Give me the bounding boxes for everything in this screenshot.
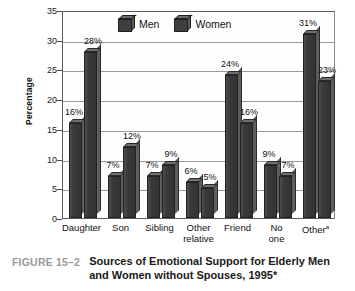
bar-front-face — [162, 165, 175, 218]
figure-container: Percentage 05101520253035 16%28%7%12%7%9… — [0, 0, 355, 291]
bar-front-face — [186, 182, 199, 218]
bar-front-face — [279, 176, 292, 218]
cube-icon — [118, 15, 135, 32]
bar-women — [84, 52, 97, 218]
bar-side-face — [253, 115, 257, 214]
legend-entry-women: Women — [174, 15, 231, 32]
x-label-other: Othera — [288, 222, 343, 235]
bar-women — [162, 165, 175, 218]
bar-group: 7%12% — [102, 10, 141, 218]
bar-front-face — [123, 147, 136, 218]
bar-front-face — [201, 188, 214, 218]
bar-side-face — [97, 44, 101, 214]
bar-men — [186, 182, 199, 218]
figure-number: FIGURE 15–2 — [12, 255, 80, 268]
y-tick-label: 15 — [17, 125, 57, 135]
bar-group: 31%23% — [297, 10, 336, 218]
bar-group: 24%16% — [219, 10, 258, 218]
bar-front-face — [225, 75, 238, 218]
caption-text: Sources of Emotional Support for Elderly… — [89, 255, 344, 282]
y-tick-label: 35 — [17, 6, 57, 16]
bar-men — [264, 165, 277, 218]
bar-side-face — [136, 139, 140, 214]
bar-value-label: 23% — [312, 65, 342, 75]
bar-front-face — [108, 176, 121, 218]
cube-icon — [174, 15, 191, 32]
legend-entry-men: Men — [118, 15, 159, 32]
bar-front-face — [69, 123, 82, 218]
bar-side-face — [175, 157, 179, 214]
chart-region: Percentage 05101520253035 16%28%7%12%7%9… — [0, 0, 355, 248]
bar-side-face — [331, 73, 335, 214]
bar-men — [225, 75, 238, 218]
y-tick-label: 25 — [17, 65, 57, 75]
bar-group: 7%9% — [141, 10, 180, 218]
plot-area: 16%28%7%12%7%9%6%5%24%16%9%7%31%23% — [62, 11, 335, 219]
bar-women — [240, 123, 253, 218]
y-tick-label: 20 — [17, 95, 57, 105]
bar-front-face — [303, 34, 316, 218]
bar-value-label: 9% — [254, 149, 284, 159]
legend-label: Women — [195, 18, 231, 30]
bar-front-face — [318, 81, 331, 218]
bar-group: 6%5% — [180, 10, 219, 218]
bar-value-label: 31% — [293, 18, 323, 28]
bar-men — [147, 176, 160, 218]
bar-group: 16%28% — [63, 10, 102, 218]
bar-men — [69, 123, 82, 218]
bar-men — [303, 34, 316, 218]
bar-front-face — [264, 165, 277, 218]
bar-women — [318, 81, 331, 218]
bar-women — [201, 188, 214, 218]
bar-front-face — [84, 52, 97, 218]
bar-women — [279, 176, 292, 218]
bar-men — [108, 176, 121, 218]
bar-group: 9%7% — [258, 10, 297, 218]
bar-value-label: 24% — [215, 59, 245, 69]
bar-front-face — [147, 176, 160, 218]
bar-women — [123, 147, 136, 218]
y-tick-mark — [57, 219, 62, 220]
bar-front-face — [240, 123, 253, 218]
y-tick-label: 30 — [17, 36, 57, 46]
chart-legend: MenWomen — [118, 15, 231, 32]
y-tick-label: 10 — [17, 155, 57, 165]
legend-label: Men — [139, 18, 159, 30]
y-tick-label: 0 — [17, 214, 57, 224]
figure-caption: FIGURE 15–2 Sources of Emotional Support… — [12, 255, 352, 282]
y-tick-label: 5 — [17, 184, 57, 194]
